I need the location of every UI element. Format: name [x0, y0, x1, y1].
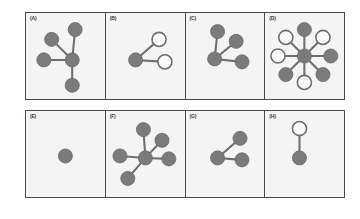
graph-node-filled: [234, 55, 248, 69]
graph-node-open: [316, 30, 330, 44]
graph-node-open: [298, 75, 312, 89]
graph-node-filled: [293, 151, 307, 165]
graph-canvas: [265, 13, 344, 99]
graph-node-filled: [324, 49, 338, 63]
panel-row-top: (A)(B)(C)(D): [25, 12, 345, 100]
graph-panel: (F): [106, 111, 186, 197]
graph-canvas: [106, 13, 185, 99]
graph-panel: (A): [26, 13, 106, 99]
graph-node-open: [293, 122, 307, 136]
graph-node-filled: [45, 32, 59, 46]
graph-panel: (D): [265, 13, 344, 99]
graph-panel: (H): [265, 111, 344, 197]
graph-canvas: [106, 111, 185, 197]
panel-row-bottom: (E)(F)(G)(H): [25, 110, 345, 198]
graph-panel: (C): [186, 13, 266, 99]
graph-canvas: [265, 111, 344, 197]
graph-node-filled: [210, 25, 224, 39]
graph-node-open: [158, 55, 172, 69]
graph-node-filled: [155, 133, 169, 147]
graph-canvas: [186, 111, 265, 197]
graph-node-filled: [279, 68, 293, 82]
graph-node-filled: [316, 68, 330, 82]
graph-node-filled: [128, 53, 142, 67]
graph-panel-figure: (A)(B)(C)(D) (E)(F)(G)(H): [25, 12, 345, 198]
graph-panel: (E): [26, 111, 106, 197]
graph-node-filled: [298, 23, 312, 37]
graph-node-filled: [207, 52, 221, 66]
graph-node-filled: [113, 149, 127, 163]
graph-node-filled: [58, 149, 72, 163]
graph-panel: (G): [186, 111, 266, 197]
graph-node-filled: [65, 53, 79, 67]
graph-node-filled: [234, 153, 248, 167]
graph-canvas: [26, 111, 105, 197]
graph-node-filled: [65, 78, 79, 92]
graph-node-open: [271, 49, 285, 63]
graph-node-open: [279, 30, 293, 44]
graph-node-filled: [68, 23, 82, 37]
graph-node-filled: [37, 53, 51, 67]
graph-canvas: [26, 13, 105, 99]
graph-node-filled: [120, 171, 134, 185]
graph-panel: (B): [106, 13, 186, 99]
graph-node-filled: [210, 151, 224, 165]
graph-node-filled: [232, 131, 246, 145]
graph-node-filled: [162, 152, 176, 166]
graph-node-filled: [229, 34, 243, 48]
graph-node-filled: [138, 151, 152, 165]
graph-node-filled: [136, 123, 150, 137]
graph-canvas: [186, 13, 265, 99]
graph-node-open: [152, 32, 166, 46]
graph-node-filled: [298, 49, 312, 63]
